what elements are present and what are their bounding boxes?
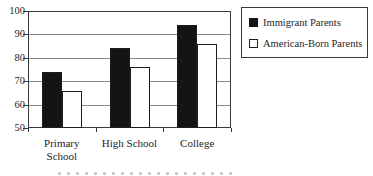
- y-tick-label-90: 90: [0, 28, 25, 40]
- x-boundary-tick-3: [231, 128, 232, 132]
- x-boundary-tick-0: [28, 128, 29, 132]
- bar-immigrant-parents-college: [177, 25, 197, 128]
- gridline-90: [29, 34, 230, 35]
- x-label-college: College: [152, 137, 242, 150]
- legend-item-american-born-parents: American-Born Parents: [249, 37, 367, 49]
- bar-american-born-parents-primary-school: [62, 91, 82, 128]
- bar-immigrant-parents-primary-school: [42, 72, 62, 128]
- bar-american-born-parents-high-school: [130, 67, 150, 128]
- y-tick-label-60: 60: [0, 99, 25, 111]
- legend-label-american-born-parents: American-Born Parents: [263, 38, 362, 49]
- chart-canvas: 5060708090100 PrimarySchoolHigh SchoolCo…: [0, 0, 373, 176]
- x-label-line: College: [152, 137, 242, 150]
- legend-swatch-black-filled-square: [249, 18, 258, 27]
- cutoff-caption-remnant: [58, 172, 232, 175]
- y-tick-label-80: 80: [0, 52, 25, 64]
- bar-american-born-parents-college: [197, 44, 217, 128]
- y-tick-label-70: 70: [0, 75, 25, 87]
- x-label-line: School: [17, 150, 107, 163]
- y-tick-label-50: 50: [0, 122, 25, 134]
- y-tick-label-100: 100: [0, 5, 25, 17]
- legend-item-immigrant-parents: Immigrant Parents: [249, 16, 367, 28]
- legend-swatch-white-outlined-square: [249, 39, 258, 48]
- x-boundary-tick-2: [163, 128, 164, 132]
- legend-label-immigrant-parents: Immigrant Parents: [263, 17, 341, 28]
- x-boundary-tick-1: [96, 128, 97, 132]
- bar-immigrant-parents-high-school: [110, 48, 130, 128]
- legend: Immigrant Parents American-Born Parents: [241, 7, 368, 58]
